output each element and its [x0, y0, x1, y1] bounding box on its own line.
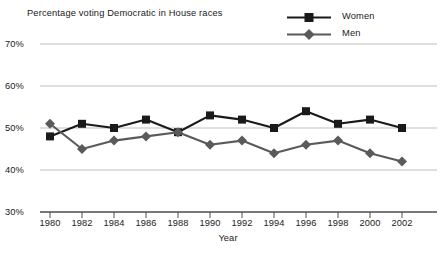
data-point-men	[109, 136, 119, 146]
x-tick-label: 1986	[135, 218, 156, 228]
plot-svg	[40, 44, 437, 212]
data-point-men	[301, 140, 311, 150]
data-point-women	[302, 107, 310, 115]
x-tick-label: 1996	[295, 218, 316, 228]
x-axis-title: Year	[218, 233, 237, 243]
legend-marker-diamond-icon	[286, 26, 332, 43]
x-tick-label: 1994	[263, 218, 284, 228]
x-tick-label: 1988	[167, 218, 188, 228]
data-point-women	[142, 116, 150, 124]
y-tick-label: 60%	[5, 81, 24, 91]
x-tick-label: 1984	[103, 218, 124, 228]
x-tick-label: 1990	[199, 218, 220, 228]
series-line-men	[50, 124, 402, 162]
y-tick-label: 50%	[5, 123, 24, 133]
data-point-men	[205, 140, 215, 150]
gridlines	[40, 44, 437, 212]
x-tick-label: 1982	[71, 218, 92, 228]
data-point-men	[141, 131, 151, 141]
data-point-women	[366, 116, 374, 124]
chart-container: Percentage voting Democratic in House ra…	[0, 0, 445, 256]
data-point-men	[237, 136, 247, 146]
data-point-women	[398, 124, 406, 132]
x-tick-label: 1980	[39, 218, 60, 228]
chart-legend: Women Men	[286, 9, 436, 43]
data-point-men	[269, 148, 279, 158]
data-point-men	[333, 136, 343, 146]
chart-title: Percentage voting Democratic in House ra…	[27, 8, 223, 18]
legend-item-women: Women	[286, 9, 436, 26]
data-point-women	[334, 120, 342, 128]
data-series-layer	[45, 107, 407, 166]
legend-label-women: Women	[342, 11, 375, 21]
y-tick-label: 30%	[5, 207, 24, 217]
plot-area	[40, 44, 437, 212]
data-point-women	[78, 120, 86, 128]
x-tick-label: 2002	[391, 218, 412, 228]
y-tick-label: 70%	[5, 39, 24, 49]
legend-item-men: Men	[286, 26, 436, 43]
data-point-women	[110, 124, 118, 132]
x-tick-label: 1998	[327, 218, 348, 228]
data-point-women	[46, 132, 54, 140]
data-point-men	[365, 148, 375, 158]
data-point-women	[238, 116, 246, 124]
y-tick-label: 40%	[5, 165, 24, 175]
legend-marker-square-icon	[286, 9, 332, 26]
legend-label-men: Men	[342, 28, 361, 38]
data-point-women	[270, 124, 278, 132]
x-tick-label: 2000	[359, 218, 380, 228]
data-point-men	[397, 157, 407, 167]
series-line-women	[50, 111, 402, 136]
data-point-women	[206, 111, 214, 119]
x-tick-label: 1992	[231, 218, 252, 228]
